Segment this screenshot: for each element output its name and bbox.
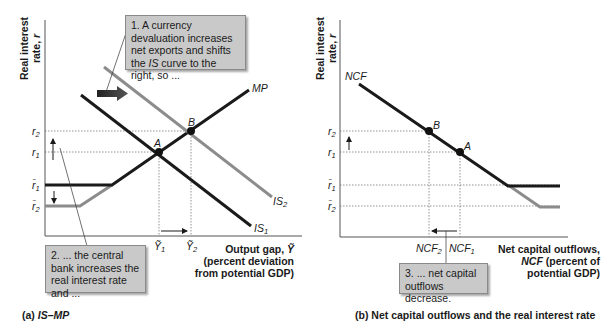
panel-b-plot [340,20,568,264]
tick-y1: Ỹ1 [154,240,165,256]
ncf-curve [359,84,560,186]
tick-r1-a: r1 [32,146,40,162]
label-point-b: B [188,116,195,128]
y-axis-title-a: Real interest rate, r [18,17,42,80]
tick-ncf2: NCF2 [416,242,442,258]
point-a [155,148,163,156]
label-is1: IS1 [254,222,268,238]
tick-rbar2-a: r̄2 [32,200,40,216]
tick-rbar1-a: r̄1 [32,179,40,195]
x-axis-title-b: Net capital outflows, NCF (percent of po… [478,243,600,279]
mp-curve [45,90,249,185]
x-axis-title-a: Output gap, Ỹ (percent deviation from po… [180,243,294,279]
callout-3: 3. ... net capital outflows decrease. [399,263,488,294]
label-is2: IS2 [273,195,287,211]
tick-ncf1: NCF1 [449,242,475,258]
callout-1: 1. A currency devaluation increases net … [125,15,246,70]
tick-r2-a: r2 [32,125,40,141]
tick-r2-b: r2 [328,125,336,141]
caption-b: (b) Net capital outflows and the real in… [355,309,595,321]
label-ncf: NCF [345,70,367,82]
point-b [187,127,195,135]
callout-2: 2. ... the central bank increases the re… [45,245,146,293]
ncf-new-curve [508,185,560,207]
tick-rbar1-b: r̄1 [328,179,336,195]
tick-r1-b: r1 [328,146,336,162]
point-b-right [425,127,433,135]
point-a-right [456,148,464,156]
callout-2-leader [60,148,87,246]
label-point-a-right: A [464,140,471,152]
label-mp: MP [252,82,268,94]
tick-rbar2-b: r̄2 [328,200,336,216]
label-point-b-right: B [433,119,440,131]
shift-right-arrow-icon [97,86,128,101]
label-point-a: A [154,137,161,149]
caption-a: (a) IS–MP [22,309,69,321]
y-axis-title-b: Real interest rate, r [314,17,338,80]
mp-new-curve [45,185,112,206]
